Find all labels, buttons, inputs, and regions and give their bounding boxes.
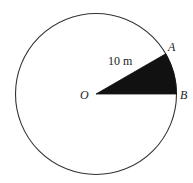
point-b-label: B [180, 88, 188, 102]
point-a-label: A [167, 40, 176, 54]
radius-label: 10 m [108, 54, 133, 68]
circle-sector-diagram: 10 m A B O [0, 0, 193, 183]
point-o-label: O [80, 88, 89, 102]
